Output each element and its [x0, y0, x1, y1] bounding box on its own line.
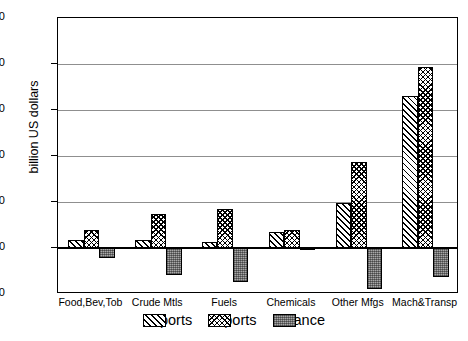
- bar-balance-3: [300, 248, 316, 250]
- y-axis-tick-label: 50: [0, 11, 5, 22]
- x-axis-tick-label: Mach&Transp: [375, 296, 468, 308]
- y-axis-tick-label: -10: [0, 287, 5, 298]
- bar-imports-3: [284, 230, 300, 248]
- bar-balance-1: [166, 248, 182, 275]
- bar-imports-0: [84, 230, 100, 248]
- legend-swatch-imports: [208, 314, 231, 327]
- y-axis-tick-label: 10: [0, 195, 5, 206]
- bar-exports-5: [402, 96, 418, 248]
- y-axis-title: billion US dollars: [27, 37, 41, 217]
- gridline: [58, 156, 457, 157]
- bar-imports-2: [217, 209, 233, 248]
- plot-area: [57, 17, 458, 293]
- legend-swatch-exports: [143, 314, 166, 327]
- y-axis-tick-label: 20: [0, 149, 5, 160]
- y-axis-tick-label: 30: [0, 103, 5, 114]
- gridline: [58, 64, 457, 65]
- bar-imports-5: [418, 67, 434, 248]
- bar-exports-1: [135, 240, 151, 248]
- legend-entry-exports: Exports: [143, 313, 192, 328]
- bar-imports-1: [151, 214, 167, 249]
- gridline: [58, 202, 457, 203]
- bar-balance-2: [233, 248, 249, 282]
- legend-entry-imports: Imports: [208, 313, 256, 328]
- y-axis-tick-label: 0: [0, 241, 5, 252]
- bar-balance-4: [367, 248, 383, 289]
- legend-swatch-balance: [273, 314, 296, 327]
- bar-exports-4: [336, 203, 352, 248]
- bar-balance-5: [433, 248, 449, 277]
- bar-imports-4: [351, 162, 367, 248]
- bar-exports-0: [68, 240, 84, 248]
- bar-chart: billion US dollars 50403020100-10 Food,B…: [0, 0, 468, 341]
- legend-entry-balance: Balance: [273, 313, 325, 328]
- zero-line: [58, 247, 457, 248]
- y-axis-tick-label: 40: [0, 57, 5, 68]
- bar-exports-3: [269, 232, 285, 248]
- bar-exports-2: [202, 242, 218, 248]
- bar-balance-0: [99, 248, 115, 258]
- gridline: [58, 110, 457, 111]
- chart-legend: ExportsImportsBalance: [0, 313, 468, 328]
